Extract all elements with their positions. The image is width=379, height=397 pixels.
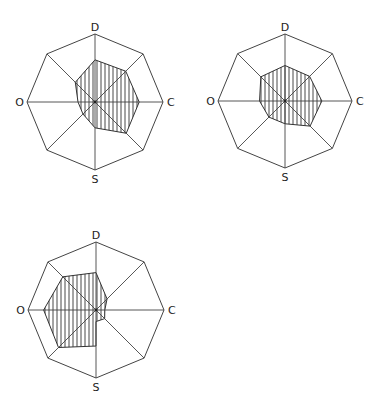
axis-label-s: S — [282, 171, 289, 184]
axis-label-c: C — [356, 95, 364, 108]
center-dot — [284, 100, 287, 103]
axis-label-s: S — [93, 381, 100, 394]
axis-label-c: C — [168, 304, 176, 317]
spoke-se — [96, 310, 144, 358]
radar-chart-2: DCSO — [206, 21, 364, 184]
axis-label-c: C — [167, 96, 175, 109]
axis-label-o: O — [206, 95, 215, 108]
axis-label-o: O — [16, 304, 25, 317]
axis-label-d: D — [281, 21, 289, 34]
radar-chart-3: DCSO — [16, 229, 176, 394]
center-dot — [95, 309, 98, 312]
spoke-ne — [96, 262, 144, 310]
spoke-sw — [47, 102, 95, 150]
data-polygon — [75, 60, 139, 133]
spoke-sw — [238, 101, 285, 148]
axis-label-d: D — [92, 229, 100, 242]
axis-label-d: D — [91, 21, 99, 34]
axis-label-o: O — [15, 96, 24, 109]
center-dot — [94, 101, 97, 104]
axis-label-s: S — [92, 173, 99, 186]
radar-charts: DCSODCSODCSO — [0, 0, 379, 397]
radar-chart-1: DCSO — [15, 21, 175, 186]
